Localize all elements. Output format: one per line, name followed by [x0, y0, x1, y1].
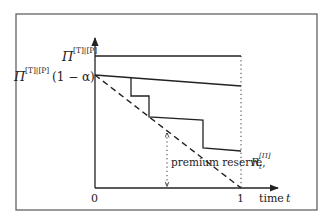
reserve-symbol: R: [250, 156, 259, 169]
dashed-diagonal: [95, 75, 241, 188]
x-label-one: 1: [237, 192, 244, 205]
step-path: [131, 77, 241, 151]
x-label-origin: 0: [91, 192, 98, 205]
reserve-superscript: [Π]: [259, 152, 271, 160]
x-axis-title: time: [259, 192, 284, 205]
diagram: Π [T]|[P] Π [T]|[P] (1 − α) 0 1 time t p…: [0, 0, 334, 221]
y-label-lower-sup: [T]|[P]: [25, 66, 49, 75]
sloped-line: [95, 75, 241, 86]
figure-frame: [16, 14, 317, 210]
y-label-upper-sup: [T]|[P]: [73, 46, 97, 55]
reserve-subscript: t: [259, 163, 262, 171]
y-label-lower-suffix: (1 − α): [52, 70, 95, 84]
x-axis-var: t: [286, 192, 291, 205]
